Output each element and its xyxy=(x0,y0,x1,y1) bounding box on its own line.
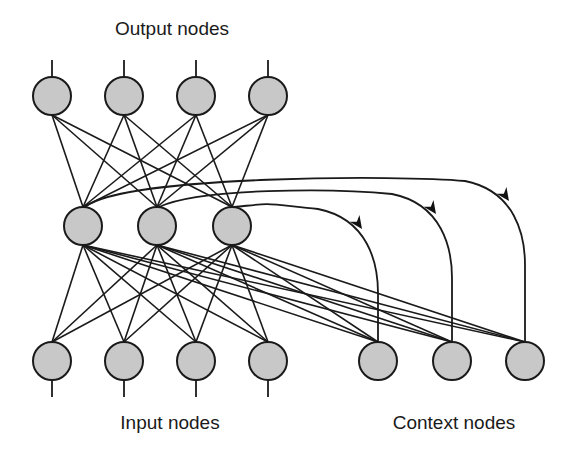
arrowhead-icon xyxy=(350,215,367,233)
input-node-1 xyxy=(105,342,143,380)
output-node-2 xyxy=(177,77,215,115)
input-node-0 xyxy=(33,342,71,380)
hidden-node-0 xyxy=(64,207,102,245)
context-node-2 xyxy=(506,342,544,380)
output-node-1 xyxy=(105,77,143,115)
output-node-0 xyxy=(33,77,71,115)
network-diagram: Output nodes Input nodes Context nodes xyxy=(0,0,570,455)
arrowhead-icon xyxy=(497,187,514,205)
context-node-1 xyxy=(433,342,471,380)
input-node-3 xyxy=(249,342,287,380)
hidden-node-2 xyxy=(213,207,251,245)
output-node-3 xyxy=(249,77,287,115)
connection-hidden-1-to-output-3 xyxy=(157,115,268,207)
recurrent-arc-hidden-1-to-context-1 xyxy=(159,190,452,342)
connection-hidden-1-to-output-2 xyxy=(157,115,196,207)
input-nodes-label: Input nodes xyxy=(120,412,219,433)
context-node-0 xyxy=(359,342,397,380)
connection-context-2-to-hidden-0 xyxy=(83,245,525,342)
connection-context-0-to-hidden-0 xyxy=(83,245,378,342)
connection-input-3-to-hidden-2 xyxy=(232,245,268,342)
arrowhead-icon xyxy=(424,200,441,218)
context-nodes-label: Context nodes xyxy=(393,412,516,433)
output-nodes-label: Output nodes xyxy=(115,18,229,39)
hidden-node-1 xyxy=(138,207,176,245)
connections-layer xyxy=(52,115,525,342)
connection-input-3-to-hidden-0 xyxy=(83,245,268,342)
input-node-2 xyxy=(177,342,215,380)
nodes-layer xyxy=(33,77,544,380)
connection-input-1-to-hidden-0 xyxy=(83,245,124,342)
